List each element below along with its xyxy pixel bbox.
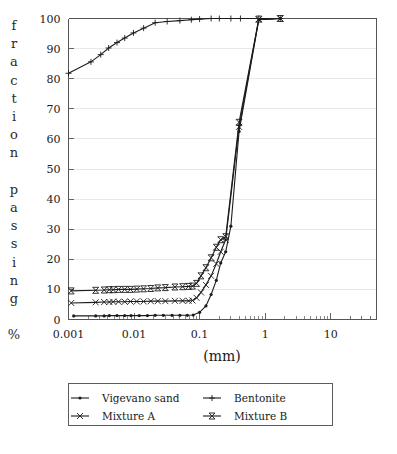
y-tick-label: 60 xyxy=(47,133,61,146)
y-tick-label: 10 xyxy=(47,283,61,296)
y-axis-title-letter: a xyxy=(10,200,18,215)
marker-dot xyxy=(94,314,97,317)
grain-size-distribution-chart: 0102030405060708090100 0.0010.010.1110 f… xyxy=(0,0,397,454)
marker-dot xyxy=(154,314,157,317)
legend-label: Mixture A xyxy=(102,410,156,422)
y-axis-title-letter: i xyxy=(12,255,16,270)
y-axis-title-letter: r xyxy=(11,36,18,51)
marker-dot xyxy=(103,314,106,317)
y-tick-label: 30 xyxy=(47,223,61,236)
marker-dot xyxy=(198,311,201,314)
y-axis-title-letter: t xyxy=(11,91,17,106)
marker-dot xyxy=(115,314,118,317)
y-tick-label: 90 xyxy=(47,43,61,56)
y-axis-title-letter: n xyxy=(10,145,19,160)
marker-dot xyxy=(108,314,111,317)
marker-dot xyxy=(72,314,75,317)
y-tick-label: 100 xyxy=(40,13,61,26)
y-axis-title-letter: p xyxy=(10,182,18,197)
marker-dot xyxy=(204,304,207,307)
y-tick-label: 20 xyxy=(47,253,61,266)
marker-dot xyxy=(210,293,213,296)
marker-dot xyxy=(129,314,132,317)
legend-label: Vigevano sand xyxy=(101,392,180,404)
marker-dot xyxy=(78,396,81,399)
marker-dot xyxy=(162,314,165,317)
legend-label: Mixture B xyxy=(234,410,288,422)
x-tick-label: 0.1 xyxy=(191,328,209,341)
x-axis-title: (mm) xyxy=(203,348,240,364)
marker-dot xyxy=(192,313,195,316)
y-tick-label: 0 xyxy=(54,314,61,327)
y-axis-title-letter: % xyxy=(8,327,20,342)
marker-dot xyxy=(170,314,173,317)
legend-label: Bentonite xyxy=(234,392,286,404)
y-tick-label: 40 xyxy=(47,193,61,206)
marker-dot xyxy=(224,250,227,253)
marker-dot xyxy=(123,314,126,317)
y-tick-label: 50 xyxy=(47,163,61,176)
marker-dot xyxy=(219,261,222,264)
y-axis-title-letter: s xyxy=(11,218,18,233)
x-tick-label: 1 xyxy=(262,328,269,341)
y-axis-title-letter: i xyxy=(12,109,16,124)
marker-dot xyxy=(186,314,189,317)
marker-dot xyxy=(215,279,218,282)
y-axis-title-letter: o xyxy=(10,127,18,142)
y-axis-title-letter: c xyxy=(10,73,17,88)
chart-legend: Vigevano sandBentoniteMixture AMixture B xyxy=(69,384,333,426)
y-axis-title-letter: n xyxy=(10,273,19,288)
y-axis-title-letter: a xyxy=(10,54,18,69)
marker-dot xyxy=(229,225,232,228)
x-tick-label: 10 xyxy=(324,328,338,341)
marker-dot xyxy=(146,314,149,317)
marker-dot xyxy=(178,314,181,317)
y-tick-label: 80 xyxy=(47,73,61,86)
marker-dot xyxy=(138,314,141,317)
chart-container: 0102030405060708090100 0.0010.010.1110 f… xyxy=(0,0,397,454)
x-tick-label: 0.01 xyxy=(122,328,147,341)
y-axis-title-letter: s xyxy=(11,236,18,251)
y-tick-label: 70 xyxy=(47,103,61,116)
y-axis-title-letter: g xyxy=(10,291,18,306)
x-tick-label: 0.001 xyxy=(53,328,85,341)
